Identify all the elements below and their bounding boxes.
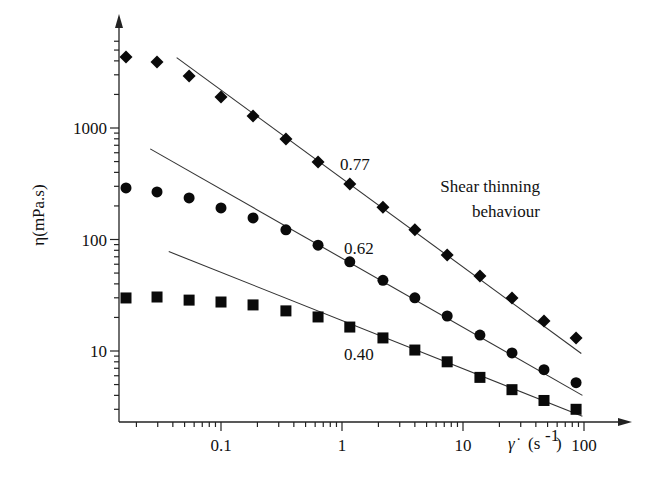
square-marker xyxy=(344,322,355,333)
x-axis-symbol: γ̇ xyxy=(508,434,520,453)
square-marker xyxy=(152,292,163,303)
chart: 0.1110100101001000 0.770.620.40Shear thi… xyxy=(0,0,665,484)
diamond-marker xyxy=(441,249,454,262)
circle-marker xyxy=(344,256,355,267)
circle-marker xyxy=(152,186,163,197)
annotation-text: 0.77 xyxy=(340,155,370,174)
circle-marker xyxy=(313,240,324,251)
circle-marker xyxy=(216,202,227,213)
x-axis-arrow-icon xyxy=(618,418,632,426)
x-tick-label: 100 xyxy=(571,436,597,455)
axes: 0.1110100101001000 xyxy=(73,14,632,455)
circle-marker xyxy=(506,347,517,358)
diamond-marker xyxy=(505,291,518,304)
x-tick-label: 10 xyxy=(455,436,472,455)
annotations: 0.770.620.40Shear thinningbehaviour xyxy=(340,155,540,364)
diamond-marker xyxy=(183,69,196,82)
diamond-marker xyxy=(473,270,486,283)
diamond-marker xyxy=(343,177,356,190)
x-tick-label: 1 xyxy=(338,436,347,455)
circle-marker xyxy=(442,311,453,322)
y-axis-arrow-icon xyxy=(115,14,123,28)
diamond-marker xyxy=(215,90,228,103)
circle-marker xyxy=(538,364,549,375)
x-tick-label: 0.1 xyxy=(210,436,231,455)
circle-marker xyxy=(377,275,388,286)
y-tick-label: 100 xyxy=(82,231,108,250)
annotation-text: Shear thinning xyxy=(440,177,540,196)
annotation-text: behaviour xyxy=(472,202,540,221)
y-tick-label: 1000 xyxy=(73,119,107,138)
square-marker xyxy=(216,297,227,308)
x-axis-label: γ̇ (s -1 ) xyxy=(508,426,562,453)
circle-marker xyxy=(184,192,195,203)
square-marker xyxy=(474,372,485,383)
square-marker xyxy=(409,345,420,356)
square-marker xyxy=(313,311,324,322)
square-marker xyxy=(184,295,195,306)
x-axis-unit: (s xyxy=(528,434,540,453)
diamond-marker xyxy=(119,51,132,64)
square-marker xyxy=(120,292,131,303)
square-marker xyxy=(377,332,388,343)
y-axis-label: η(mPa.s) xyxy=(29,184,48,245)
circle-marker xyxy=(474,330,485,341)
annotation-text: 0.40 xyxy=(344,345,374,364)
diamond-marker xyxy=(537,314,550,327)
circle-marker xyxy=(280,224,291,235)
circle-marker xyxy=(248,212,259,223)
square-marker xyxy=(538,395,549,406)
square-marker xyxy=(248,299,259,310)
annotation-text: 0.62 xyxy=(344,239,374,258)
diamond-marker xyxy=(151,56,164,69)
square-marker xyxy=(442,356,453,367)
square-marker xyxy=(571,404,582,415)
y-tick-label: 10 xyxy=(90,342,107,361)
fit-line-square xyxy=(169,252,583,417)
square-marker xyxy=(506,384,517,395)
diamond-marker xyxy=(247,110,260,123)
circle-marker xyxy=(120,182,131,193)
x-axis-close: ) xyxy=(556,434,562,453)
diamond-marker xyxy=(570,331,583,344)
circle-marker xyxy=(571,377,582,388)
square-marker xyxy=(280,305,291,316)
circle-marker xyxy=(409,292,420,303)
